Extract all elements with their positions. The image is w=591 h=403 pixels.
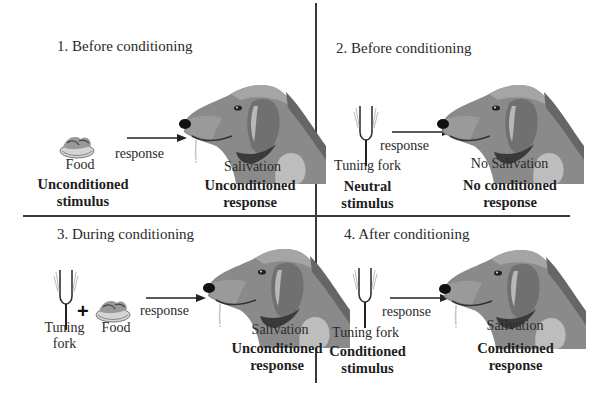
panel-title: 4. After conditioning: [344, 226, 469, 243]
response-label: Salivation: [240, 322, 320, 338]
arrow-label: response: [115, 146, 164, 162]
panel-title: 1. Before conditioning: [57, 38, 192, 55]
panel-title: 2. Before conditioning: [336, 40, 471, 57]
stimulus-type: Unconditioned stimulus: [28, 176, 138, 210]
response-type: Conditioned response: [468, 340, 563, 374]
response-label: Salivation: [480, 318, 550, 334]
response-type: Unconditioned response: [222, 340, 332, 374]
tuning-fork-icon: [353, 268, 377, 328]
arrow-label: response: [380, 138, 429, 154]
arrow-label: response: [382, 304, 431, 320]
food-bowl-icon: [95, 295, 131, 323]
stimulus-label: Tuning fork: [330, 158, 405, 174]
response-type: Unconditioned response: [195, 177, 305, 211]
stimulus-label-tuning-fork: Tuning fork: [42, 320, 87, 352]
stimulus-label: Tuning fork: [328, 325, 403, 341]
response-label: No Salivation: [462, 156, 557, 172]
horizontal-divider: [23, 215, 570, 217]
tuning-fork-icon: [354, 106, 378, 166]
panel-title: 3. During conditioning: [57, 226, 194, 243]
response-label: Salivation: [210, 159, 295, 175]
response-type: No conditioned response: [450, 177, 570, 211]
stimulus-type: Conditioned stimulus: [325, 343, 410, 377]
arrow-label: response: [140, 303, 189, 319]
stimulus-type: Neutral stimulus: [330, 178, 405, 212]
food-bowl-icon: [59, 131, 95, 159]
stimulus-label: Food: [60, 157, 100, 173]
stimulus-label-food: Food: [96, 320, 136, 336]
